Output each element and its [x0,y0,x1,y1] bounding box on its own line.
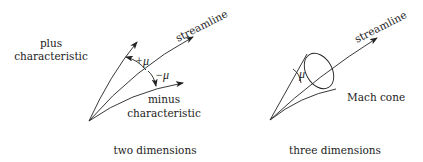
minus-mu-label: −μ [155,68,169,82]
minus-characteristic-label-line1: minus [148,93,180,105]
streamline-3d [270,38,377,120]
two-dimensions-caption: two dimensions [113,144,196,156]
characteristics-diagram: +μ −μ plus characteristic minus characte… [0,0,423,162]
streamline-label-3d: streamline [352,8,408,44]
mu-label-3d: μ [298,67,305,81]
minus-characteristic-label-line2: characteristic [127,107,201,119]
mach-cone-label: Mach cone [347,91,405,103]
plus-mu-label: +μ [135,54,149,68]
plus-characteristic-label-line2: characteristic [14,50,88,62]
plus-characteristic-label-line1: plus [40,37,62,49]
streamline-label-2d: streamline [173,7,229,43]
three-dimensions-caption: three dimensions [289,144,381,156]
two-dimensions-panel: +μ −μ plus characteristic minus characte… [14,7,229,156]
three-dimensions-panel: μ Mach cone streamline three dimensions [270,8,408,156]
mach-cone-upper-edge [270,54,307,120]
mach-cone-lower-edge [270,89,336,120]
